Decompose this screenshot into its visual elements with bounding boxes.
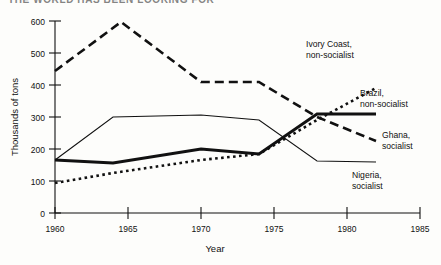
x-tick-label-1965: 1965 [119,224,138,234]
annotation-brazil: Brazil, non-socialist [360,88,408,109]
x-tick-label-1960: 1960 [46,224,65,234]
chart-figure: THE WORLD HAS BEEN LOOKING FOR 600 500 4… [0,0,441,265]
y-tick-label-600: 600 [31,17,45,27]
annotation-ghana: Ghana, socialist [382,130,413,151]
ghana-label-line1: Ghana, [382,130,410,140]
y-tick-label-400: 400 [31,81,45,91]
line-chart-svg: 600 500 400 300 200 100 0 1960 1965 1970… [0,0,441,265]
series-line-brazil [55,88,376,183]
y-axis-title: Thousands of tons [9,78,20,156]
y-tick-label-0: 0 [40,209,45,219]
y-tick-label-300: 300 [31,113,45,123]
x-tick-label-1970: 1970 [192,224,211,234]
annotation-nigeria: Nigeria, socialist [352,170,383,191]
x-tick-label-1980: 1980 [338,224,357,234]
ghana-label-line2: socialist [382,141,413,151]
y-tick-label-500: 500 [31,49,45,59]
x-tick-label-1975: 1975 [265,224,284,234]
y-tick-label-100: 100 [31,177,45,187]
x-axis-ticks: 1960 1965 1970 1975 1980 1985 [46,207,430,234]
series-line-nigeria-socialist [55,115,376,162]
nigeria-label-line2: socialist [352,181,383,191]
brazil-label-line1: Brazil, [360,88,384,98]
ivory-coast-label-line2: non-socialist [306,50,354,60]
series-line-thick-solid [55,114,376,163]
nigeria-label-line1: Nigeria, [352,170,382,180]
ivory-coast-label-line1: Ivory Coast, [306,39,352,49]
y-axis-ticks: 600 500 400 300 200 100 0 [31,17,61,219]
y-tick-label-200: 200 [31,145,45,155]
x-tick-label-1985: 1985 [411,224,430,234]
brazil-label-line2: non-socialist [360,99,408,109]
x-axis-title: Year [205,243,224,254]
annotation-ivory-coast: Ivory Coast, non-socialist [306,39,354,60]
